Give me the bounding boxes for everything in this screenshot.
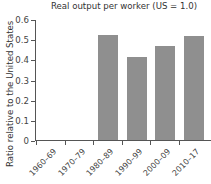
y-tick-label: 0: [12, 136, 29, 146]
y-tick-label: 0.4: [12, 55, 29, 65]
bar: [98, 35, 118, 140]
x-tick: [179, 141, 180, 145]
x-tick: [150, 141, 151, 145]
y-tick: [31, 141, 35, 142]
bar: [127, 57, 147, 140]
bar: [155, 46, 175, 140]
y-tick: [31, 101, 35, 102]
x-tick: [36, 141, 37, 145]
y-tick-label: 0.5: [12, 35, 29, 45]
y-axis-line: [35, 20, 36, 141]
x-tick: [93, 141, 94, 145]
y-tick-label: 0.1: [12, 116, 29, 126]
chart-title: Real output per worker (US = 1.0): [0, 1, 211, 11]
y-tick: [31, 20, 35, 21]
y-tick-label: 0.3: [12, 76, 29, 86]
y-tick: [31, 81, 35, 82]
y-tick-label: 0.6: [12, 15, 29, 25]
x-tick: [65, 141, 66, 145]
y-tick-label: 0.2: [12, 96, 29, 106]
x-tick: [122, 141, 123, 145]
bar: [184, 36, 204, 140]
y-tick: [31, 121, 35, 122]
y-tick: [31, 40, 35, 41]
y-tick: [31, 60, 35, 61]
x-axis-line: [35, 140, 211, 141]
